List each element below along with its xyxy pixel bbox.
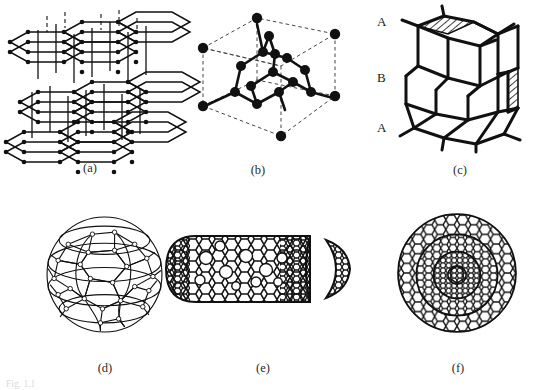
- bottom-caption-trace: Fig. 1.1: [6, 379, 336, 389]
- carbon-onion-diagram: [392, 208, 522, 338]
- caption-d: (d): [75, 361, 135, 376]
- panel-a-graphite: [8, 6, 183, 156]
- caption-f: (f): [428, 361, 488, 376]
- panel-b-diamond: [195, 10, 345, 150]
- stacking-label-a-top: A: [377, 14, 386, 30]
- graphite-layer-top: [8, 12, 190, 74]
- stacking-label-b: B: [377, 70, 386, 86]
- caption-c: (c): [430, 163, 490, 178]
- hatched-face-top: [418, 16, 474, 34]
- nanotube-cap-mesh: [320, 228, 360, 323]
- fullerene-cage: [47, 217, 162, 332]
- panel-f-carbon-onion: [392, 208, 522, 338]
- lonsdaleite-diagram: [392, 8, 537, 153]
- caption-b: (b): [228, 163, 288, 178]
- atom-nodes: [198, 13, 340, 141]
- c60-diagram: [42, 212, 167, 337]
- stacking-label-a-bottom: A: [377, 120, 386, 136]
- caption-a: (a): [60, 161, 120, 176]
- panel-d-fullerene: [42, 212, 167, 337]
- nanotube-diagram: [160, 228, 375, 323]
- nanotube-wall-mesh: [160, 228, 320, 323]
- panel-e-nanotube: [160, 228, 375, 323]
- diamond-cubic-diagram: [195, 10, 345, 150]
- caption-e: (e): [233, 361, 293, 376]
- graphite-diagram: [8, 6, 183, 156]
- panel-c-lonsdaleite: [392, 8, 537, 153]
- carbon-allotropes-figure: A B A: [0, 0, 543, 390]
